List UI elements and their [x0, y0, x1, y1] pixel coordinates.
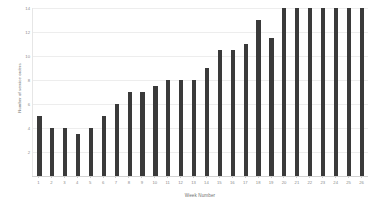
x-axis-tick-label: 4 — [76, 180, 78, 185]
x-tick-slot: 25 — [342, 176, 355, 190]
bar[interactable] — [295, 8, 299, 176]
bar-slot — [239, 8, 252, 176]
x-tick-mark — [322, 176, 323, 178]
x-axis-tick-label: 8 — [128, 180, 130, 185]
x-axis-tick-label: 18 — [256, 180, 261, 185]
x-tick-slot: 26 — [355, 176, 368, 190]
x-axis-tick-label: 24 — [333, 180, 338, 185]
bar[interactable] — [269, 38, 273, 176]
bar-slot — [188, 8, 201, 176]
bar-slot — [317, 8, 330, 176]
bar-slot — [46, 8, 59, 176]
x-tick-slot: 14 — [200, 176, 213, 190]
x-tick-mark — [38, 176, 39, 178]
x-axis-tick-label: 3 — [63, 180, 65, 185]
bar[interactable] — [321, 8, 325, 176]
y-axis-tick-labels: 2468101214 — [18, 0, 30, 213]
x-tick-slot: 9 — [135, 176, 148, 190]
x-axis-tick-label: 13 — [191, 180, 196, 185]
bar[interactable] — [37, 116, 41, 176]
bar[interactable] — [192, 80, 196, 176]
bar-slot — [265, 8, 278, 176]
bar-slot — [162, 8, 175, 176]
x-axis-tick-label: 14 — [204, 180, 209, 185]
x-tick-mark — [258, 176, 259, 178]
x-tick-slot: 13 — [187, 176, 200, 190]
x-tick-slot: 17 — [239, 176, 252, 190]
x-tick-mark — [296, 176, 297, 178]
y-axis-tick-label: 14 — [18, 6, 30, 11]
bar-slot — [355, 8, 368, 176]
x-tick-mark — [64, 176, 65, 178]
bar[interactable] — [308, 8, 312, 176]
x-tick-slot: 16 — [226, 176, 239, 190]
bar[interactable] — [89, 128, 93, 176]
bar-slot — [97, 8, 110, 176]
x-tick-slot: 23 — [316, 176, 329, 190]
bar[interactable] — [218, 50, 222, 176]
x-axis-tick-label: 22 — [307, 180, 312, 185]
y-axis-tick-label: 8 — [18, 78, 30, 83]
x-tick-mark — [154, 176, 155, 178]
x-axis-tick-label: 25 — [346, 180, 351, 185]
bar[interactable] — [140, 92, 144, 176]
x-tick-slot: 24 — [329, 176, 342, 190]
x-tick-slot: 15 — [213, 176, 226, 190]
x-tick-slot: 7 — [110, 176, 123, 190]
bar-slot — [33, 8, 46, 176]
y-axis-tick-label: 12 — [18, 30, 30, 35]
bar[interactable] — [334, 8, 338, 176]
x-tick-mark — [90, 176, 91, 178]
bar[interactable] — [102, 116, 106, 176]
x-axis-tick-label: 20 — [282, 180, 287, 185]
bar-slot — [85, 8, 98, 176]
x-tick-slot: 21 — [290, 176, 303, 190]
x-axis-tick-label: 16 — [230, 180, 235, 185]
bar[interactable] — [153, 86, 157, 176]
bar[interactable] — [347, 8, 351, 176]
bar[interactable] — [282, 8, 286, 176]
x-tick-mark — [115, 176, 116, 178]
x-tick-slot: 1 — [32, 176, 45, 190]
x-tick-slot: 2 — [45, 176, 58, 190]
bar[interactable] — [50, 128, 54, 176]
x-axis-tick-label: 26 — [359, 180, 364, 185]
bar-slot — [123, 8, 136, 176]
bar[interactable] — [256, 20, 260, 176]
bar[interactable] — [128, 92, 132, 176]
bar[interactable] — [76, 134, 80, 176]
x-axis-tick-label: 9 — [141, 180, 143, 185]
x-tick-mark — [245, 176, 246, 178]
x-tick-slot: 4 — [71, 176, 84, 190]
bar-slot — [175, 8, 188, 176]
x-axis-title: Week Number — [32, 193, 368, 199]
bar-slot — [304, 8, 317, 176]
x-tick-mark — [103, 176, 104, 178]
bar[interactable] — [360, 8, 364, 176]
x-tick-mark — [232, 176, 233, 178]
bar[interactable] — [179, 80, 183, 176]
x-axis-tick-label: 1 — [37, 180, 39, 185]
bar-chart: Number of service orders 2468101214 1234… — [0, 0, 373, 213]
y-axis-tick-label: 10 — [18, 54, 30, 59]
bar[interactable] — [166, 80, 170, 176]
x-axis-tick-label: 12 — [178, 180, 183, 185]
x-tick-slot: 22 — [303, 176, 316, 190]
y-axis-tick-label: 6 — [18, 102, 30, 107]
x-tick-slot: 12 — [174, 176, 187, 190]
bar-slot — [252, 8, 265, 176]
x-tick-mark — [283, 176, 284, 178]
bar[interactable] — [231, 50, 235, 176]
x-axis-tick-labels: 1234567891011121314151617181920212223242… — [32, 176, 368, 190]
x-axis-tick-label: 15 — [217, 180, 222, 185]
x-tick-slot: 11 — [161, 176, 174, 190]
x-axis-tick-label: 5 — [89, 180, 91, 185]
bar-slot — [110, 8, 123, 176]
plot-area — [32, 8, 368, 176]
y-axis-tick-label: 4 — [18, 126, 30, 131]
bar[interactable] — [63, 128, 67, 176]
bar[interactable] — [205, 68, 209, 176]
bar[interactable] — [115, 104, 119, 176]
bar[interactable] — [244, 44, 248, 176]
x-tick-mark — [361, 176, 362, 178]
